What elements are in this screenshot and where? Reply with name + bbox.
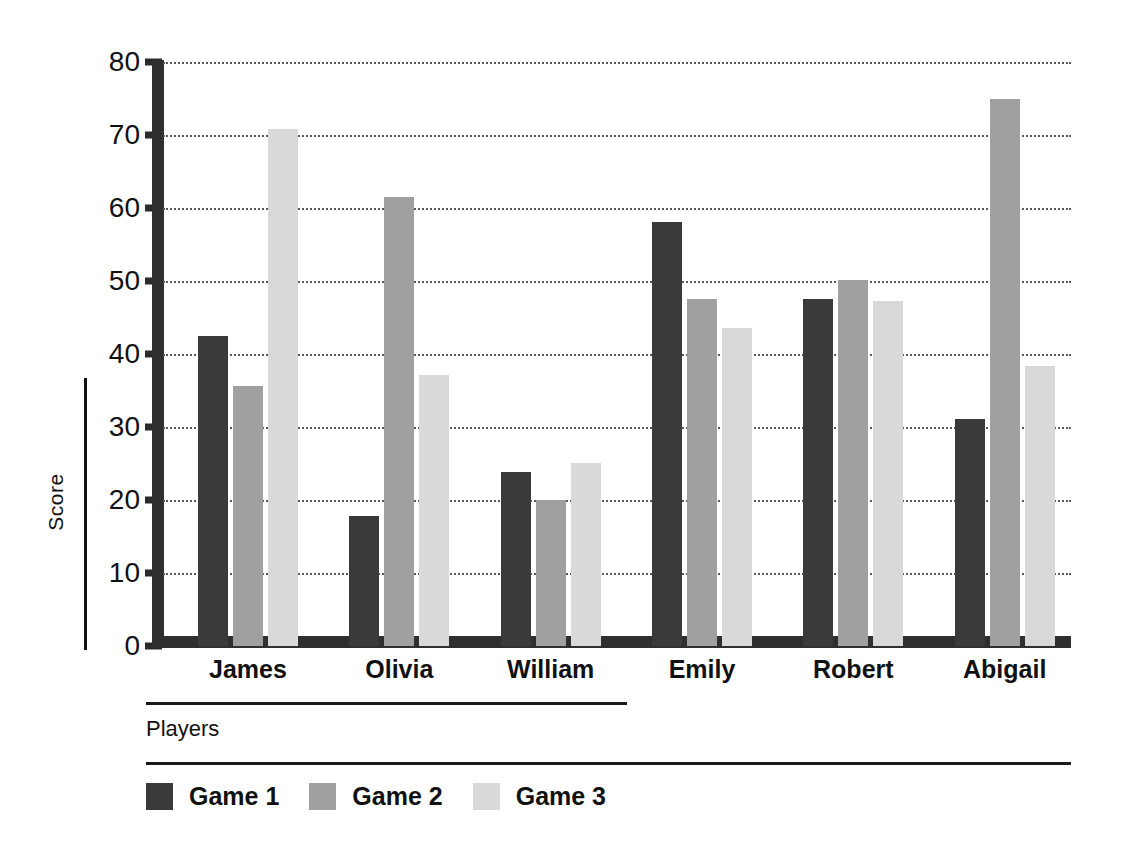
bar [1025,366,1055,646]
gridline [163,573,1071,575]
bar [198,336,228,646]
y-axis-tick-label: 50 [78,267,140,295]
bar [419,375,449,646]
y-axis-tick-label: 70 [78,121,140,149]
bar-chart: Score 01020304050607080 JamesOliviaWilli… [0,0,1127,846]
gridline [163,281,1071,283]
legend-item[interactable]: Game 3 [473,782,606,811]
gridline [163,354,1071,356]
bar [652,222,682,646]
bar [955,419,985,646]
y-axis-tick-label: 20 [78,486,140,514]
y-axis-tick-label: 10 [78,559,140,587]
y-axis-label: Score [44,402,68,602]
bar [838,280,868,646]
legend-item[interactable]: Game 1 [146,782,279,811]
y-axis-tick-label: 40 [78,340,140,368]
x-axis-category-label: Abigail [915,655,1095,684]
legend-swatch-icon [309,783,336,810]
y-axis-tick-label: 0 [78,632,140,660]
legend-label: Game 1 [189,782,279,811]
bar [536,500,566,646]
gridline [163,500,1071,502]
bar [687,299,717,646]
y-axis-tick-labels: 01020304050607080 [78,0,140,846]
legend-item[interactable]: Game 2 [309,782,442,811]
gridline [163,62,1071,64]
bar [722,328,752,646]
x-axis-label: Players [146,716,219,742]
y-axis-tick-label: 60 [78,194,140,222]
gridline [163,427,1071,429]
bar [233,386,263,646]
y-axis-tick-label: 30 [78,413,140,441]
plot-area [163,62,1071,646]
bar [384,197,414,646]
gridline [163,135,1071,137]
y-axis-tick-label: 80 [78,48,140,76]
bar [571,463,601,646]
bar [349,516,379,646]
y-axis-label-group: Score [36,370,76,650]
x-axis-title-rule [146,702,627,705]
legend: Game 1Game 2Game 3 [146,782,636,811]
bar [268,129,298,646]
bar [990,99,1020,647]
gridline [163,208,1071,210]
legend-swatch-icon [473,783,500,810]
legend-swatch-icon [146,783,173,810]
legend-label: Game 3 [516,782,606,811]
legend-rule [146,762,1071,765]
legend-label: Game 2 [352,782,442,811]
bar [803,299,833,646]
bar [873,301,903,646]
bar [501,472,531,646]
